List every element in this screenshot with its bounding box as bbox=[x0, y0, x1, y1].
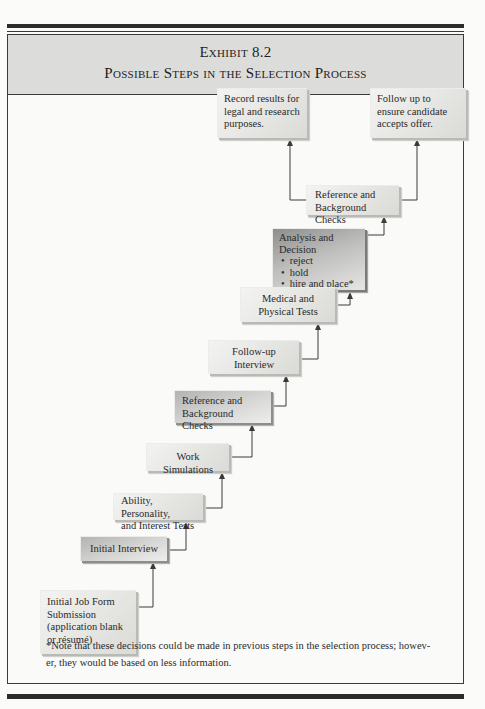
step-line: Background Checks bbox=[315, 202, 391, 227]
bottom-rule bbox=[7, 694, 464, 699]
step-line: Follow up to bbox=[377, 93, 460, 106]
step-line: Reference and bbox=[182, 395, 264, 408]
exhibit-header: Exhibit 8.2 Possible Steps in the Select… bbox=[8, 35, 463, 95]
step-line: Record results for bbox=[224, 93, 301, 106]
footnote-line: er, they would be based on less informat… bbox=[46, 654, 456, 671]
step-line: Initial Interview bbox=[85, 543, 163, 556]
step-follow-up-offer: Follow up to ensure candidate accepts of… bbox=[370, 88, 466, 138]
step-ability-tests: Ability, Personality, and Interest Tests bbox=[113, 493, 203, 520]
step-line: Physical Tests bbox=[245, 306, 331, 319]
step-line: Medical and bbox=[245, 293, 331, 306]
step-line: Interview bbox=[213, 359, 295, 372]
step-line: Follow-up bbox=[213, 346, 295, 359]
step-line: (application blank bbox=[47, 621, 130, 634]
footnote: *Note that these decisions could be made… bbox=[46, 637, 456, 671]
decision-option-reject: reject bbox=[281, 255, 359, 267]
step-line: Analysis and bbox=[279, 232, 359, 244]
step-line: legal and research bbox=[224, 106, 301, 119]
step-record-results: Record results for legal and research pu… bbox=[217, 88, 307, 138]
exhibit-label: Exhibit 8.2 bbox=[8, 42, 463, 63]
decision-option-hold: hold bbox=[281, 267, 359, 279]
step-initial-interview: Initial Interview bbox=[80, 536, 167, 561]
step-line: Background Checks bbox=[182, 408, 264, 433]
step-line: accepts offer. bbox=[377, 118, 460, 131]
step-line: Reference and bbox=[315, 189, 391, 202]
step-line: and Interest Tests bbox=[121, 520, 196, 533]
step-line: Initial Job Form bbox=[47, 596, 130, 609]
step-reference-checks: Reference and Background Checks bbox=[174, 390, 271, 423]
step-line: Ability, Personality, bbox=[121, 495, 196, 520]
step-line: Decision bbox=[279, 244, 359, 256]
footnote-line: *Note that these decisions could be made… bbox=[46, 637, 456, 654]
step-follow-up-interview: Follow-up Interview bbox=[208, 340, 299, 374]
step-analysis-decision: Analysis and Decision reject hold hire a… bbox=[272, 228, 365, 290]
step-work-simulations: Work Simulations bbox=[146, 443, 229, 471]
step-line: ensure candidate bbox=[377, 106, 460, 119]
step-line: purposes. bbox=[224, 118, 301, 131]
top-rule-thin bbox=[7, 31, 464, 32]
exhibit-title: Possible Steps in the Selection Process bbox=[8, 63, 463, 84]
step-medical-tests: Medical and Physical Tests bbox=[240, 287, 335, 322]
top-rule-thick bbox=[7, 24, 464, 28]
step-reference-checks-final: Reference and Background Checks bbox=[306, 185, 399, 215]
step-line: Submission bbox=[47, 609, 130, 622]
step-line: Work Simulations bbox=[151, 451, 225, 476]
decision-options: reject hold hire and place* bbox=[279, 255, 359, 290]
